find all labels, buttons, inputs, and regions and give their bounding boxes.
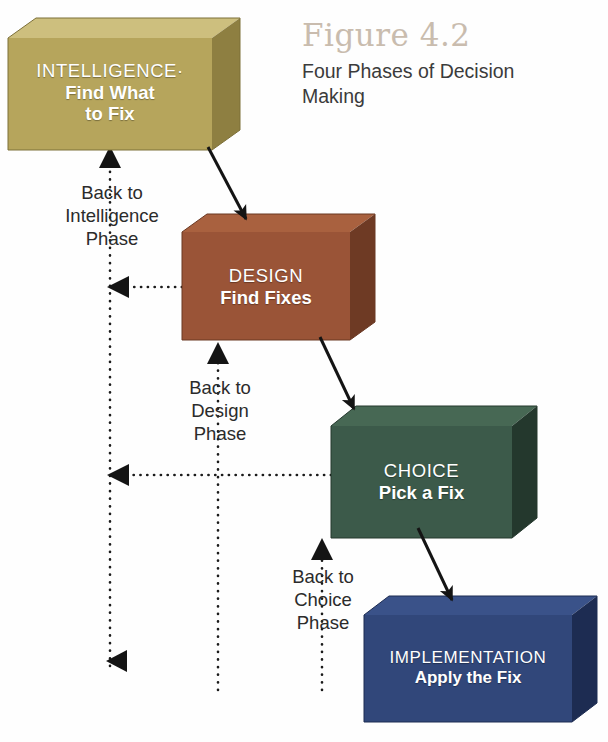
phase-box-choice[interactable] [331,406,537,538]
figure-number: Figure 4.2 [302,18,598,53]
choice-box-top [331,406,537,426]
feedback-arrowhead-into-design [207,342,229,364]
intelligence-box-side [212,18,240,150]
figure-container: Figure 4.2 Four Phases of Decision Makin… [0,0,608,742]
choice-box-front [331,426,512,538]
feedback-label-back-to-intelligence: Back to Intelligence Phase [42,182,182,251]
phase-box-implementation[interactable] [364,596,597,722]
back-to-intelligence-line2: Intelligence [42,205,182,228]
back-to-choice-line3: Phase [256,612,390,635]
figure-caption-text: Four Phases of Decision Making [302,59,570,109]
intelligence-box-front [8,38,212,150]
phase-box-design[interactable] [182,214,375,340]
arrow-choice-to-implementation [418,528,452,600]
feedback-label-back-to-design: Back to Design Phase [152,377,288,446]
back-to-design-line1: Back to [152,377,288,400]
feedback-arrowhead-into-choice [311,538,333,560]
arrow-design-to-choice [320,337,354,409]
design-box-top [182,214,375,232]
feedback-arrowhead-implementation-to-trunk [106,650,127,672]
back-to-choice-line2: Choice [256,589,390,612]
implementation-box-side [572,596,597,722]
implementation-box-top [364,596,597,615]
back-to-design-line3: Phase [152,423,288,446]
intelligence-box-top [8,18,240,38]
design-box-front [182,232,350,340]
back-to-choice-line1: Back to [256,566,390,589]
figure-caption-block: Figure 4.2 Four Phases of Decision Makin… [302,18,598,109]
back-to-intelligence-line1: Back to [42,182,182,205]
back-to-intelligence-line3: Phase [42,228,182,251]
choice-box-side [512,406,537,538]
arrow-intelligence-to-design [208,147,246,219]
feedback-label-back-to-choice: Back to Choice Phase [256,566,390,635]
back-to-design-line2: Design [152,400,288,423]
design-box-side [350,214,375,340]
phase-box-intelligence[interactable] [8,18,240,150]
implementation-box-front [364,615,572,722]
